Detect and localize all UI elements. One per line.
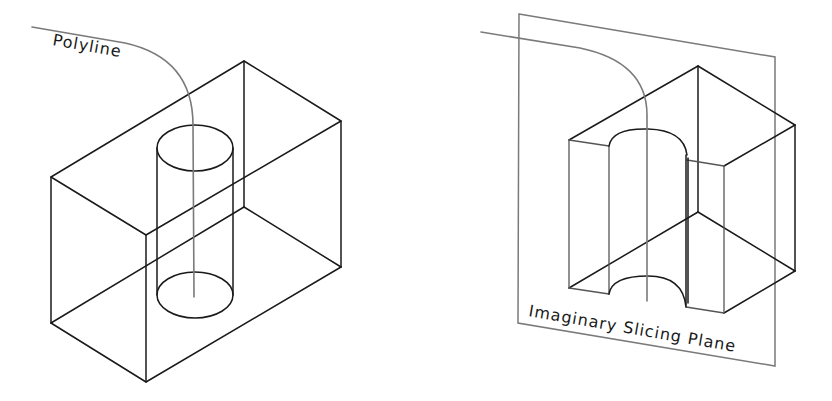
right-block-edges bbox=[569, 66, 795, 313]
right-figure: Imaginary Slicing Plane bbox=[481, 14, 795, 366]
slicing-plane-label: Imaginary Slicing Plane bbox=[527, 301, 738, 356]
left-figure: Polyline bbox=[32, 27, 341, 382]
diagram-canvas: Polyline bbox=[0, 0, 832, 401]
right-polyline-path bbox=[481, 32, 647, 301]
polyline-label: Polyline bbox=[51, 30, 123, 61]
left-polyline-path bbox=[32, 27, 194, 297]
left-block-edges bbox=[51, 61, 341, 382]
right-half-cylinder bbox=[609, 129, 688, 307]
